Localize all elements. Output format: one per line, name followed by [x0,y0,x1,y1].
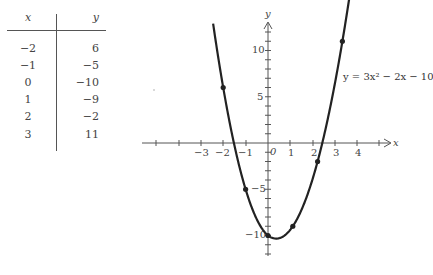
x-tick-label: 1 [288,147,294,158]
x-tick-label: 2 [311,147,317,158]
y-tick-label: −5 [251,183,266,194]
parabola-curve [213,0,350,239]
x-tick-label: −3 [194,147,209,158]
parabola-graph: x y −3 −2 −1 0 1 2 3 4 10 5 −5 −10 y = 3… [0,0,433,275]
x-tick-label: 4 [355,147,361,158]
data-point [315,159,320,164]
data-points [221,39,345,238]
x-tick-label: −2 [215,147,230,158]
data-point [221,85,226,90]
equation-label: y = 3x² − 2x − 10 [342,71,433,82]
data-point [265,233,270,238]
x-axis [142,139,391,147]
x-tick-label: 0 [270,146,277,157]
y-tick-label: 10 [252,44,265,55]
x-axis-label: x [393,137,399,148]
data-point [290,224,295,229]
data-point [340,39,345,44]
y-tick-label: 5 [257,91,263,102]
y-axis [264,22,272,256]
y-axis-label: y [264,8,271,19]
x-tick-label: −1 [238,147,253,158]
data-point [243,187,248,192]
speck [153,89,155,91]
x-tick-label: 3 [333,147,339,158]
